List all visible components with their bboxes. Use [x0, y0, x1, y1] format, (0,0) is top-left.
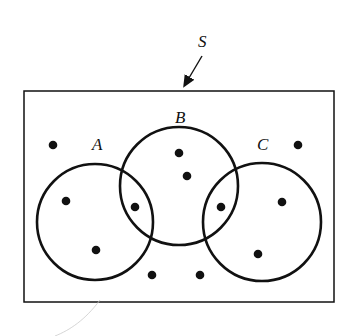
element-point — [217, 203, 226, 212]
venn-diagram: S ABC — [0, 0, 349, 336]
set-label-a: A — [91, 135, 103, 154]
element-point — [294, 141, 303, 150]
element-point — [148, 271, 157, 280]
set-label-b: B — [175, 108, 186, 127]
element-point — [254, 250, 263, 259]
set-circle-c — [203, 163, 321, 281]
set-label-c: C — [257, 135, 269, 154]
element-point — [62, 197, 71, 206]
element-point — [196, 271, 205, 280]
universe-arrow — [186, 56, 202, 83]
element-point — [49, 141, 58, 150]
universe-label: S — [198, 32, 207, 51]
element-point — [131, 203, 140, 212]
element-point — [183, 172, 192, 181]
set-circle-b — [120, 127, 238, 245]
stray-line — [55, 300, 100, 336]
element-point — [175, 149, 184, 158]
set-circle-a — [37, 164, 153, 280]
element-point — [92, 246, 101, 255]
element-point — [278, 198, 287, 207]
